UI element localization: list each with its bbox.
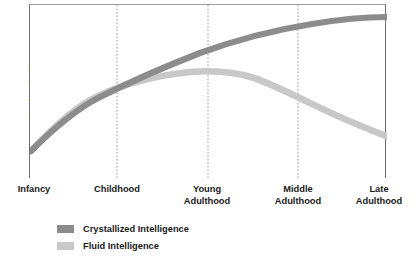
x-tick-middle-adulthood: MiddleAdulthood	[261, 184, 335, 207]
x-axis-labels: Infancy Childhood YoungAdulthood MiddleA…	[0, 184, 417, 218]
chart-legend: Crystallized Intelligence Fluid Intellig…	[57, 222, 317, 256]
intelligence-lifespan-chart: Magnitude of Effect Infancy Childhood Yo…	[0, 0, 417, 263]
x-tick-infancy: Infancy	[0, 184, 68, 196]
plot-canvas	[30, 5, 387, 179]
legend-item-fluid-intelligence: Fluid Intelligence	[57, 239, 317, 253]
x-tick-young-adulthood: YoungAdulthood	[170, 184, 244, 207]
x-tick-childhood: Childhood	[81, 184, 153, 196]
legend-item-crystallized-intelligence: Crystallized Intelligence	[57, 222, 317, 236]
legend-label-fluid: Fluid Intelligence	[83, 241, 159, 251]
caption-strip	[4, 255, 304, 263]
legend-label-crystallized: Crystallized Intelligence	[83, 224, 189, 234]
legend-swatch-fluid	[57, 242, 74, 250]
legend-swatch-crystallized	[57, 225, 74, 233]
x-tick-late-adulthood: LateAdulthood	[343, 184, 415, 207]
plot-area	[29, 4, 386, 178]
